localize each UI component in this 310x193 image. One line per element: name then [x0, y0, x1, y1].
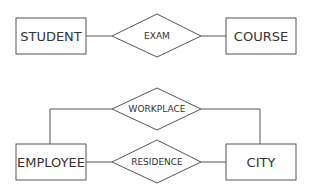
relationship-exam-label: EXAM	[144, 31, 170, 41]
entity-employee-label: EMPLOYEE	[17, 155, 85, 170]
er-diagram: STUDENT COURSE EMPLOYEE CITY EXAM WORKPL…	[0, 0, 310, 193]
connector-employee-workplace	[50, 109, 112, 144]
entity-student-label: STUDENT	[20, 29, 82, 44]
connector-workplace-city	[201, 109, 260, 144]
relationship-residence-label: RESIDENCE	[131, 157, 183, 167]
entity-city-label: CITY	[247, 155, 276, 170]
entity-course-label: COURSE	[234, 29, 288, 44]
relationship-workplace-label: WORKPLACE	[129, 104, 186, 114]
